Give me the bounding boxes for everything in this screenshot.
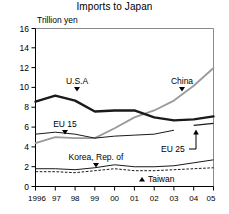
y-tick-label-2: 2	[24, 162, 29, 172]
series-label-taiwan: Taiwan	[148, 174, 175, 184]
y-axis-ticks	[32, 29, 36, 187]
x-axis-ticks	[36, 187, 214, 191]
chart-plot: 0 2 4 6 8 10 12 14 16 1996 97 98 99 00 0…	[0, 0, 229, 214]
series-line-usa	[36, 96, 214, 121]
triangle-down-icon-usa	[74, 87, 80, 92]
y-tick-label-14: 14	[20, 43, 30, 53]
x-tick-label-98: 98	[71, 194, 80, 203]
y-tick-label-16: 16	[20, 24, 30, 34]
arrow-up-icon-eu25	[193, 130, 199, 135]
x-tick-label-1996: 1996	[28, 194, 46, 203]
x-tick-label-97: 97	[52, 194, 61, 203]
series-line-eu25	[194, 123, 214, 125]
triangle-down-icon-china	[179, 87, 185, 92]
plot-axes	[36, 29, 214, 187]
series-line-taiwan	[36, 168, 214, 173]
series-label-china: China	[171, 76, 193, 86]
series-line-korea	[36, 160, 214, 170]
plot-frame	[36, 29, 214, 187]
x-tick-label-04: 04	[189, 194, 198, 203]
y-tick-label-12: 12	[20, 63, 30, 73]
y-tick-label-10: 10	[20, 82, 30, 92]
y-tick-label-8: 8	[24, 102, 29, 112]
series-label-usa: U.S.A	[66, 76, 89, 86]
x-tick-label-05: 05	[207, 194, 216, 203]
y-tick-label-6: 6	[24, 122, 29, 132]
x-tick-label-99: 99	[90, 194, 99, 203]
series-label-eu25: EU 25	[161, 144, 185, 154]
series-label-eu15: EU 15	[53, 119, 77, 129]
x-tick-label-03: 03	[169, 194, 178, 203]
x-tick-label-02: 02	[150, 194, 159, 203]
x-tick-label-00: 00	[110, 194, 119, 203]
y-tick-label-0: 0	[24, 182, 29, 192]
y-tick-label-4: 4	[24, 142, 29, 152]
leader-line-eu25	[189, 133, 196, 149]
chart-container: Imports to Japan Trillion yen 0 2 4 6 8 …	[0, 0, 229, 214]
triangle-up-icon-taiwan	[139, 177, 145, 182]
x-tick-label-01: 01	[130, 194, 139, 203]
series-label-korea: Korea, Rep. of	[69, 152, 124, 162]
